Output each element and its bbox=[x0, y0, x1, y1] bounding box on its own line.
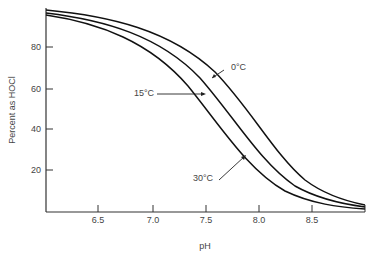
y-tick-label: 60 bbox=[31, 84, 41, 94]
x-tick-label: 8.0 bbox=[253, 215, 266, 225]
label-30c: 30°C bbox=[193, 173, 214, 183]
chart: 80 60 40 20 6.5 7.0 7.5 8.0 8.5 Percent … bbox=[0, 0, 370, 254]
arrowhead-15c bbox=[201, 92, 206, 96]
y-tick-label: 80 bbox=[31, 42, 41, 52]
label-15c: 15°C bbox=[134, 88, 155, 98]
x-tick-label: 7.0 bbox=[147, 215, 160, 225]
y-ticks bbox=[46, 47, 53, 170]
x-axis-label: pH bbox=[199, 241, 211, 251]
x-tick-label: 7.5 bbox=[200, 215, 213, 225]
x-tick-label: 8.5 bbox=[306, 215, 319, 225]
y-axis-label: Percent as HOCl bbox=[7, 76, 17, 144]
y-tick-label: 40 bbox=[31, 124, 41, 134]
x-ticks bbox=[98, 205, 312, 212]
arrow-30c bbox=[219, 156, 245, 180]
y-tick-label: 20 bbox=[31, 165, 41, 175]
label-0c: 0°C bbox=[231, 62, 247, 72]
x-tick-label: 6.5 bbox=[92, 215, 105, 225]
